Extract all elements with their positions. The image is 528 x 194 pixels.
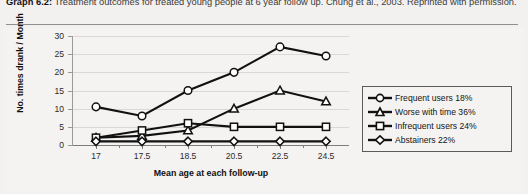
chart-figure: 051015202530 1717.518.520.522.524.5 No. … [4,28,524,192]
data-point-square [184,120,191,127]
legend-item[interactable]: Worse with time 36% [367,105,506,119]
x-axis-label: Mean age at each follow-up [73,168,349,178]
legend-key-square-icon [367,120,393,132]
series-diamond [92,137,330,145]
chart-series-layer [4,28,354,158]
legend-label: Abstainers 22% [395,135,455,145]
data-point-circle [322,52,330,60]
chart-plot: 051015202530 1717.518.520.522.524.5 No. … [4,28,354,158]
figure-screenshot: Graph 6.2: Treatment outcomes for treate… [0,0,528,194]
series-square [92,120,329,142]
legend-key-circle-icon [367,92,393,104]
data-point-circle [92,103,100,111]
data-point-diamond [322,137,330,145]
legend-key-triangle-icon [367,106,393,118]
data-point-square [138,127,145,134]
data-point-triangle [276,86,285,94]
data-point-square [230,123,237,130]
legend-item[interactable]: Frequent users 18% [367,91,506,105]
data-point-diamond [276,137,284,145]
data-point-circle [184,87,192,95]
data-point-diamond [230,137,238,145]
figure-caption: Graph 6.2: Treatment outcomes for treate… [6,0,522,9]
data-point-circle [230,69,238,77]
figure-caption-text: Treatment outcomes for treated young peo… [52,0,517,7]
series-circle [92,43,330,120]
data-point-square [322,123,329,130]
legend-label: Frequent users 18% [395,93,472,103]
legend-key-diamond-icon [367,134,393,146]
legend-item[interactable]: Abstainers 22% [367,133,506,147]
data-point-square [276,123,283,130]
data-point-diamond [184,137,192,145]
data-point-circle [276,43,284,51]
figure-caption-label: Graph 6.2: [6,0,52,7]
chart-legend: Frequent users 18% Worse with time 36% I… [362,86,512,152]
series-line [96,47,326,116]
data-point-circle [138,112,146,120]
legend-label: Worse with time 36% [395,107,476,117]
legend-item[interactable]: Infrequent users 24% [367,119,506,133]
horizontal-rule [6,24,518,25]
legend-label: Infrequent users 24% [395,121,477,131]
